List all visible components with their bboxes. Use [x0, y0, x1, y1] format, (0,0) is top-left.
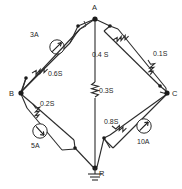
junction-dot — [76, 24, 80, 28]
element-src-5a[interactable]: 5A — [31, 124, 47, 149]
node-r: R — [88, 165, 105, 180]
element-src-10a[interactable]: 10A — [137, 119, 151, 145]
element-label-src-3a: 3A — [30, 31, 39, 38]
node-dot-a — [92, 16, 97, 21]
node-label-b: B — [9, 89, 14, 98]
element-r-02s[interactable]: 0.2S — [33, 100, 55, 118]
circuit-diagram-canvas: 3A 0.6S 0.4 S — [0, 0, 182, 189]
element-label-src-10a: 10A — [137, 138, 150, 145]
element-r-01s[interactable]: 0.1S — [148, 50, 168, 75]
node-label-a: A — [92, 3, 97, 12]
junction-dot — [158, 84, 162, 88]
element-label-r-03s: 0.3S — [99, 87, 114, 94]
branch-a-b-outer: 3A — [22, 19, 95, 91]
element-r-r04s[interactable]: 0.4 S — [92, 35, 129, 58]
element-r-08s[interactable]: 0.8S — [104, 118, 126, 132]
branch-a-c-inner: 0.4 S — [92, 19, 160, 86]
node-a: A — [92, 3, 98, 22]
circuit-svg: 3A 0.6S 0.4 S — [0, 0, 182, 189]
element-label-r-06s: 0.6S — [48, 70, 63, 77]
branch-b-r-inner: 0.2S — [21, 94, 93, 167]
node-dot-c — [164, 90, 169, 95]
junction-dot — [24, 76, 28, 80]
element-label-r-02s: 0.2S — [40, 100, 55, 107]
element-label-src-5a: 5A — [31, 142, 40, 149]
node-label-c: C — [172, 89, 178, 98]
element-r-03s[interactable]: 0.3S — [92, 82, 114, 97]
element-label-r-01s: 0.1S — [153, 50, 168, 57]
branch-a-c-outer: 0.1S — [110, 26, 168, 91]
node-dot-b — [18, 90, 23, 95]
element-label-r-08s: 0.8S — [104, 118, 119, 125]
